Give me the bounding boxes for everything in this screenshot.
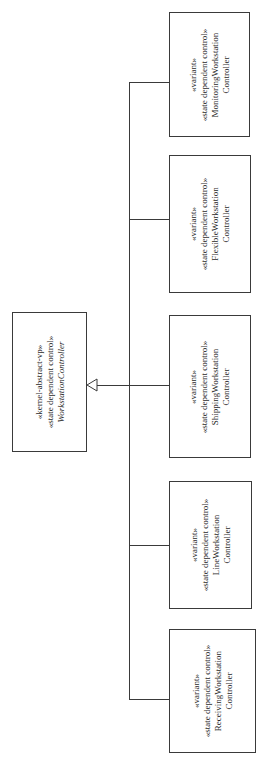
- child-name-line1: ShippingWorkstation: [210, 340, 221, 432]
- child-stereotype-1: «variant»: [189, 499, 200, 591]
- child-name-line2: Controller: [221, 178, 232, 270]
- child-label: «variant» «state dependent control» Flex…: [188, 178, 232, 270]
- child-stereotype-2: «state dependent control»: [200, 499, 211, 591]
- child-name-line1: MonitoringWorkstation: [210, 28, 221, 120]
- child-label: «variant» «state dependent control» Rece…: [191, 645, 235, 737]
- child-stereotype-1: «variant»: [188, 28, 199, 120]
- child-class-shipping: «variant» «state dependent control» Ship…: [169, 315, 251, 458]
- child-stereotype-2: «state dependent control»: [199, 178, 210, 270]
- child-class-flexible: «variant» «state dependent control» Flex…: [169, 155, 251, 293]
- child-stereotype-1: «variant»: [188, 340, 199, 432]
- child-class-monitoring: «variant» «state dependent control» Moni…: [169, 12, 250, 137]
- child-name-line2: Controller: [224, 645, 235, 737]
- child-name-line1: LineWorkstation: [211, 499, 222, 591]
- child-stereotype-2: «state dependent control»: [199, 28, 210, 120]
- child-class-line: «variant» «state dependent control» Line…: [169, 481, 252, 609]
- child-name-line1: FlexibleWorkstation: [210, 178, 221, 270]
- child-name-line2: Controller: [221, 28, 232, 120]
- child-label: «variant» «state dependent control» Moni…: [188, 28, 232, 120]
- child-label: «variant» «state dependent control» Ship…: [188, 340, 232, 432]
- child-stereotype-1: «variant»: [188, 178, 199, 270]
- child-name-line2: Controller: [221, 340, 232, 432]
- child-stereotype-2: «state dependent control»: [199, 340, 210, 432]
- child-name-line1: ReceivingWorkstation: [213, 645, 224, 737]
- child-class-receiving: «variant» «state dependent control» Rece…: [169, 629, 256, 753]
- child-stereotype-1: «variant»: [191, 645, 202, 737]
- child-stereotype-2: «state dependent control»: [202, 645, 213, 737]
- child-name-line2: Controller: [222, 499, 233, 591]
- child-label: «variant» «state dependent control» Line…: [189, 499, 233, 591]
